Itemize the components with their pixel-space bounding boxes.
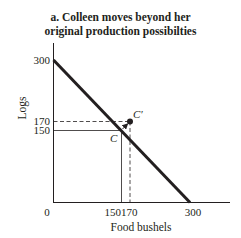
x-tick-170: 170 [121, 206, 138, 218]
y-axis-label: Logs [16, 96, 29, 120]
y-tick-150: 150 [34, 124, 51, 136]
chart-plot: C C′ 300 170 150 0 150 170 300 Food bush… [0, 0, 241, 238]
point-c-prime-label: C′ [133, 108, 143, 120]
x-tick-300: 300 [185, 206, 202, 218]
y-tick-300: 300 [34, 54, 51, 66]
x-tick-150: 150 [105, 206, 122, 218]
point-c-label: C [110, 132, 118, 144]
x-tick-0: 0 [44, 206, 50, 218]
x-axis-label: Food bushels [110, 221, 172, 233]
move-arrow [123, 124, 128, 129]
